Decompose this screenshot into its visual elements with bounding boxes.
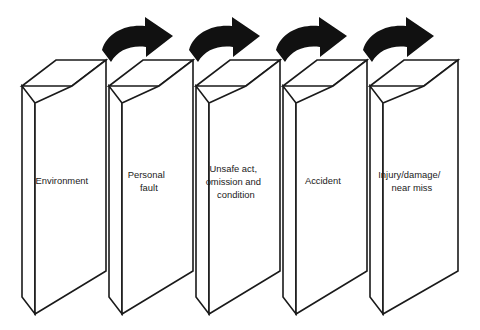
arrow-personal-fault-to-unsafe-act [189,17,260,62]
arrow-unsafe-act-to-accident [276,17,347,62]
block-left-face-environment [22,86,35,314]
arrow-environment-to-personal-fault [102,17,173,62]
domino-block-environment: Environment [0,0,106,314]
block-left-face-injury [370,86,383,314]
block-left-face-personal-fault [109,86,122,314]
block-front-face-accident [296,60,367,314]
domino-diagram-canvas: Environment Personal fault U [0,0,480,330]
block-left-face-accident [283,86,296,314]
arrow-accident-to-injury [363,17,434,62]
block-left-face-unsafe-act [196,86,209,314]
block-front-face-environment [35,60,106,314]
domino-diagram: Environment Personal fault U [0,0,480,330]
